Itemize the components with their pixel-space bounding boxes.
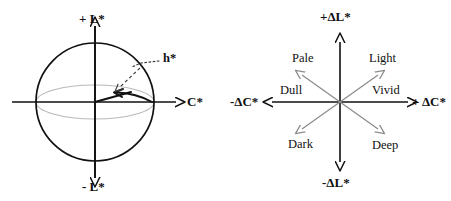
diagonal-arrow-dark: [302, 102, 340, 129]
hue-label-leader-arrow: [120, 68, 140, 87]
right-axis-label-positive-delta-lightness: +ΔL*: [320, 10, 351, 23]
quadrant-label-light: Light: [369, 52, 396, 65]
left-axis-label-chroma: C*: [187, 95, 203, 108]
right-axis-label-negative-delta-chroma: -ΔC*: [230, 95, 258, 108]
right-axis-label-positive-delta-chroma: + ΔC*: [412, 95, 446, 108]
right-diagram: +ΔL* -ΔL* + ΔC* -ΔC* Pale Light Dull Viv…: [230, 0, 451, 201]
figure-canvas: + L* - L* C* h*: [0, 0, 451, 201]
hue-angle-label: h*: [163, 52, 176, 65]
quadrant-label-deep: Deep: [372, 139, 398, 152]
quadrant-label-vivid: Vivid: [372, 84, 400, 97]
quadrant-label-pale: Pale: [292, 52, 314, 65]
right-axis-label-negative-delta-lightness: -ΔL*: [322, 176, 350, 189]
quadrant-label-dark: Dark: [288, 138, 313, 151]
left-diagram: + L* - L* C* h*: [0, 0, 230, 201]
quadrant-label-dull: Dull: [280, 84, 302, 97]
left-axis-label-negative-lightness: - L*: [82, 180, 105, 193]
left-axis-label-positive-lightness: + L*: [79, 12, 105, 25]
hue-label-leader-dotted: [132, 61, 159, 67]
diagonal-arrow-pale: [302, 75, 340, 102]
diagonal-arrow-deep: [340, 102, 378, 129]
